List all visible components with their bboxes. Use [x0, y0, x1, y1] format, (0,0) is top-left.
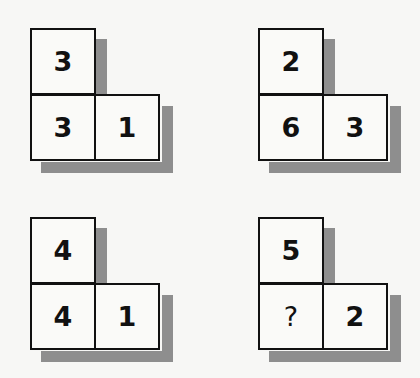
top-cell: 2: [258, 28, 324, 95]
bottom-right-cell: 1: [94, 94, 160, 161]
shadow: [269, 162, 401, 173]
top-cell: 3: [30, 28, 96, 95]
bottom-right-cell: 2: [322, 283, 388, 350]
figure-3: 4 4 1: [30, 217, 190, 377]
bottom-left-cell: 4: [30, 283, 96, 350]
shadow: [41, 162, 173, 173]
figure-2: 2 6 3: [258, 28, 418, 188]
shadow: [41, 351, 173, 362]
figure-4: 5 ? 2: [258, 217, 418, 377]
shadow: [269, 351, 401, 362]
unknown-cell: ?: [258, 283, 324, 350]
bottom-right-cell: 1: [94, 283, 160, 350]
shadow: [324, 39, 335, 95]
shadow: [96, 228, 107, 284]
top-cell: 5: [258, 217, 324, 284]
shadow: [96, 39, 107, 95]
top-cell: 4: [30, 217, 96, 284]
bottom-left-cell: 6: [258, 94, 324, 161]
shadow: [324, 228, 335, 284]
bottom-left-cell: 3: [30, 94, 96, 161]
bottom-right-cell: 3: [322, 94, 388, 161]
figure-1: 3 3 1: [30, 28, 190, 188]
